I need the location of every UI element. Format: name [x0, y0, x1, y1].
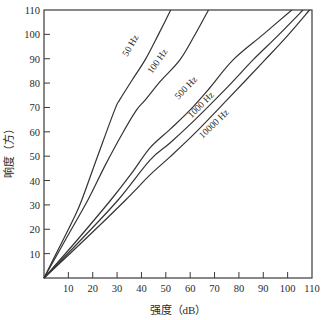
x-tick-label: 80 [234, 283, 245, 294]
x-tick-label: 20 [87, 283, 98, 294]
curve-500-hz [44, 10, 292, 278]
x-axis: 102030405060708090100110 [63, 272, 320, 294]
y-tick-label: 110 [25, 5, 40, 16]
y-tick-label: 20 [30, 224, 41, 235]
y-tick-label: 90 [30, 54, 41, 65]
plot-frame [44, 10, 312, 278]
y-axis-title: 响度（方） [2, 123, 15, 178]
y-tick-label: 40 [30, 176, 41, 187]
x-tick-label: 30 [112, 283, 123, 294]
curve-10000-hz [44, 10, 310, 278]
x-tick-label: 50 [161, 283, 172, 294]
curve-label-500-hz: 500 Hz [173, 74, 199, 101]
curve-50-hz [44, 10, 171, 278]
curves [44, 10, 310, 278]
x-tick-label: 40 [136, 283, 147, 294]
x-axis-title: 强度（dB） [150, 303, 207, 316]
y-tick-label: 60 [30, 127, 41, 138]
loudness-intensity-chart: 102030405060708090100110 102030405060708… [0, 0, 328, 320]
x-tick-label: 110 [304, 283, 319, 294]
x-tick-label: 70 [209, 283, 220, 294]
curve-label-100-hz: 100 Hz [146, 47, 170, 75]
x-tick-label: 60 [185, 283, 196, 294]
chart-canvas: 102030405060708090100110 102030405060708… [0, 0, 328, 320]
y-tick-label: 80 [30, 78, 41, 89]
plot-border [44, 10, 312, 278]
x-tick-label: 10 [63, 283, 74, 294]
x-tick-label: 90 [258, 283, 269, 294]
curve-label-50-hz: 50 Hz [120, 33, 140, 58]
curve-label-1000-hz: 1000 Hz [186, 90, 216, 120]
y-tick-label: 100 [24, 29, 40, 40]
y-tick-label: 10 [30, 249, 41, 260]
y-tick-label: 50 [30, 151, 41, 162]
y-axis: 102030405060708090100110 [24, 5, 50, 260]
y-tick-label: 70 [30, 102, 41, 113]
x-tick-label: 100 [280, 283, 296, 294]
curve-1000-hz [44, 10, 303, 278]
y-tick-label: 30 [30, 200, 41, 211]
